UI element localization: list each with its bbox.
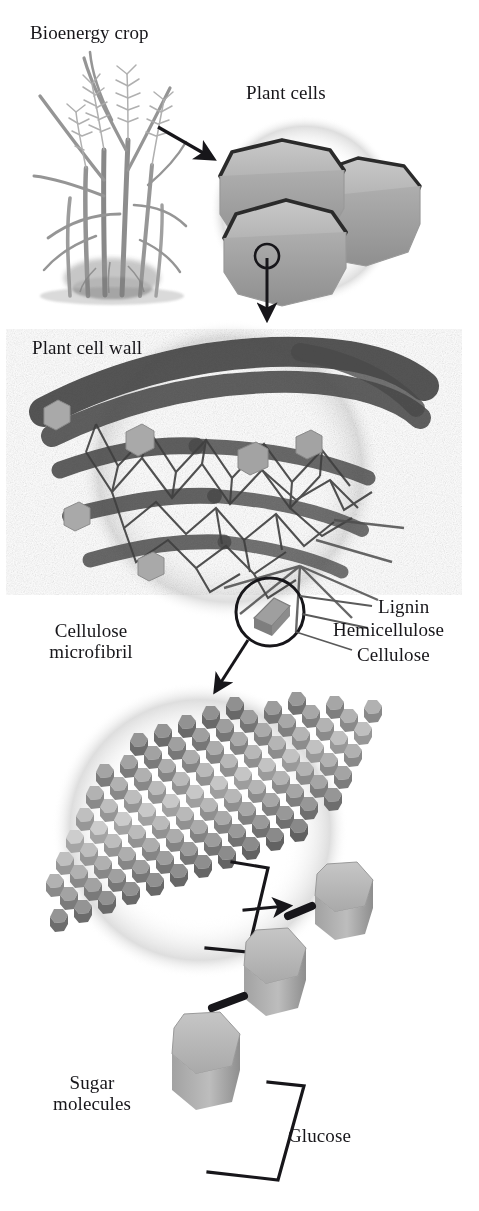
arrow-crop-to-cells (158, 127, 212, 158)
cellulose-chain-unit (194, 855, 212, 878)
cellulose-chain-unit (334, 766, 352, 789)
label-glucose: Glucose (288, 1125, 351, 1146)
cellulose-chain-unit (344, 744, 362, 767)
label-bioenergy-crop: Bioenergy crop (30, 22, 149, 43)
cellulose-chain-unit (354, 722, 372, 745)
cellulose-chain-unit (218, 846, 236, 869)
glucose-unit (244, 928, 306, 1016)
plant-cell-wall-illustration (44, 320, 424, 650)
label-cellulose-microfibril: Cellulose microfibril (26, 620, 156, 663)
label-plant-cells: Plant cells (246, 82, 326, 103)
cellulose-chain-unit (364, 700, 382, 723)
leader-lignin (300, 596, 372, 606)
figure-canvas: Bioenergy crop Plant cells Plant cell wa… (0, 0, 479, 1211)
cellulose-chain-unit (74, 900, 92, 923)
cellulose-chain-unit (50, 909, 68, 932)
plant-cell-front (224, 200, 346, 306)
label-sugar-molecules: Sugar molecules (22, 1072, 162, 1115)
label-plant-cell-wall: Plant cell wall (32, 337, 142, 358)
cellulose-chain-unit (146, 873, 164, 896)
cellulose-chain-unit (290, 819, 308, 842)
glycosidic-bond (212, 996, 244, 1008)
cellulose-chain-unit (266, 828, 284, 851)
cellulose-chain-unit (324, 788, 342, 811)
bioenergy-crop-illustration (34, 52, 186, 305)
glucose-unit (172, 1012, 240, 1110)
label-lignin: Lignin (378, 596, 429, 617)
label-cellulose: Cellulose (357, 644, 430, 665)
cellulose-chain-unit (300, 797, 318, 820)
cellulose-chain-unit (170, 864, 188, 887)
label-hemicellulose: Hemicellulose (333, 619, 444, 640)
arrow-wall-to-microfibril (216, 640, 248, 690)
plant-cells-illustration (210, 115, 420, 306)
glucose-unit (315, 862, 373, 940)
cellulose-chain-unit (242, 837, 260, 860)
cellulose-chain-unit (98, 891, 116, 914)
cellulose-chain-unit (122, 882, 140, 905)
